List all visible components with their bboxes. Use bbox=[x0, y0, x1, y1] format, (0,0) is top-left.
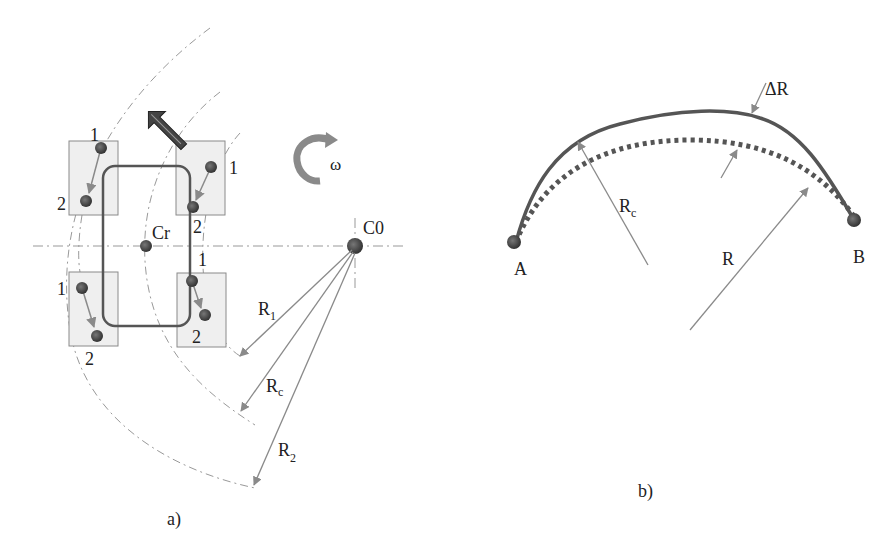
radius-r-arrow-b bbox=[690, 188, 808, 330]
label-rl-1: 1 bbox=[57, 279, 66, 299]
cr-label: Cr bbox=[152, 223, 170, 243]
reference-arc-dotted bbox=[516, 140, 853, 242]
panel-b: A B Rc R ΔR b) bbox=[507, 79, 865, 502]
delta-r-arrow-top bbox=[752, 83, 766, 113]
wheel-point-rr-1 bbox=[186, 275, 198, 287]
figure: 1 2 1 2 1 2 1 2 ω Cr C0 R1 Rc R2 a) bbox=[0, 0, 888, 551]
delta-r-label: ΔR bbox=[765, 79, 789, 99]
label-fr-2: 2 bbox=[193, 217, 202, 237]
wheel-point-fr-2 bbox=[187, 201, 199, 213]
point-a-label: A bbox=[514, 259, 527, 279]
panel-a: 1 2 1 2 1 2 1 2 ω Cr C0 R1 Rc R2 a) bbox=[33, 28, 405, 530]
label-rl-2: 2 bbox=[85, 349, 94, 369]
rotation-arrowhead bbox=[325, 132, 338, 148]
radius-r2-arrow bbox=[254, 253, 355, 485]
rotation-center-cr bbox=[140, 240, 152, 252]
left-arc bbox=[79, 215, 82, 272]
wheel-point-rl-1 bbox=[76, 282, 88, 294]
label-fl-2: 2 bbox=[57, 194, 66, 214]
radius-rc-arrow-b bbox=[578, 142, 648, 265]
label-rr-1: 1 bbox=[198, 250, 207, 270]
wheel-box-front-right bbox=[176, 141, 225, 215]
omega-label: ω bbox=[330, 155, 341, 174]
delta-r-arrow-bottom bbox=[721, 150, 737, 178]
c0-label: C0 bbox=[363, 218, 384, 238]
point-a bbox=[507, 235, 521, 249]
wheel-point-fr-1 bbox=[205, 161, 217, 173]
outer-arc-r2 bbox=[67, 28, 255, 488]
point-b-label: B bbox=[853, 247, 865, 267]
radius-r1-arrow bbox=[240, 250, 352, 356]
caption-b: b) bbox=[638, 481, 653, 502]
label-fr-1: 1 bbox=[229, 158, 238, 178]
r2-label: R2 bbox=[278, 440, 296, 465]
wheel-point-fl-2 bbox=[80, 195, 92, 207]
rc-label-b: Rc bbox=[619, 196, 636, 220]
r1-label: R1 bbox=[258, 299, 276, 323]
r-label-b: R bbox=[722, 249, 734, 269]
point-b bbox=[847, 213, 861, 227]
label-fl-1: 1 bbox=[90, 125, 99, 145]
rc-label: Rc bbox=[266, 376, 283, 399]
wheel-point-rr-2 bbox=[199, 309, 211, 321]
trajectory-solid bbox=[516, 111, 853, 242]
wheel-point-rl-2 bbox=[91, 330, 103, 342]
wheel-box-rear-right bbox=[177, 273, 226, 347]
label-rr-2: 2 bbox=[192, 327, 201, 347]
caption-a: a) bbox=[167, 509, 181, 530]
